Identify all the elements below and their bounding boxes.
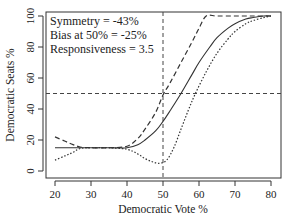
x-tick-label: 50 (158, 188, 170, 200)
chart: 20304050607080 020406080100 Democratic V… (0, 0, 290, 224)
y-axis-label: Democratic Seats % (4, 48, 16, 142)
x-axis: 20304050607080 (50, 181, 278, 200)
y-tick-label: 0 (24, 168, 36, 174)
annotation-responsiveness: Responsiveness = 3.5 (50, 42, 154, 56)
x-tick-label: 60 (194, 188, 206, 200)
y-tick-label: 20 (24, 134, 36, 146)
y-tick-label: 100 (24, 7, 36, 24)
y-tick-label: 40 (24, 103, 36, 115)
x-tick-label: 70 (230, 188, 242, 200)
x-tick-label: 80 (266, 188, 278, 200)
x-axis-label: Democratic Vote % (118, 203, 208, 215)
annotation-bias: Bias at 50% = -25% (50, 28, 147, 42)
y-axis: 020406080100 (24, 7, 43, 174)
annotation-symmetry: Symmetry = -43% (50, 14, 139, 28)
x-tick-label: 30 (86, 188, 98, 200)
x-tick-label: 40 (122, 188, 134, 200)
y-tick-label: 60 (24, 72, 36, 84)
y-tick-label: 80 (24, 41, 36, 53)
x-tick-label: 20 (50, 188, 62, 200)
